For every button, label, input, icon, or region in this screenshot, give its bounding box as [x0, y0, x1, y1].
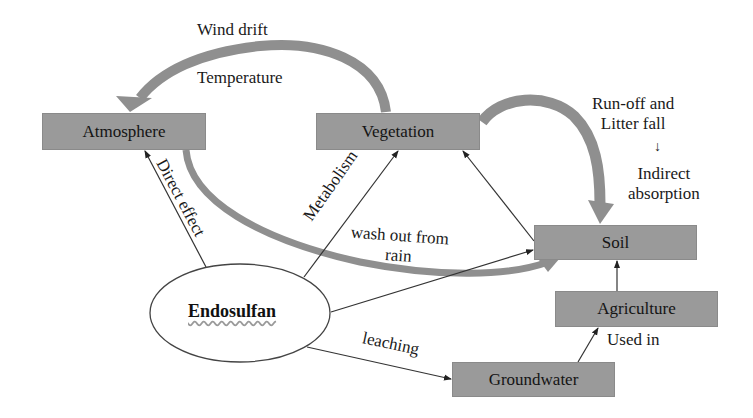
- agriculture-node: Agriculture: [555, 291, 718, 327]
- used-in-label: Used in: [607, 330, 659, 350]
- runoff-down-arrow: ↓: [654, 139, 661, 155]
- connectors-layer: [0, 0, 753, 418]
- vegetation-node: Vegetation: [316, 113, 480, 150]
- runoff-label-line2: Litter fall: [592, 114, 674, 134]
- endosulfan-label: Endosulfan: [188, 301, 276, 322]
- soil-to-vegetation-line: [463, 151, 534, 241]
- used-in-line: [578, 328, 598, 362]
- wash-out-label: wash out from rain: [349, 223, 450, 269]
- indirect-absorption-label: Indirect absorption: [628, 164, 700, 203]
- runoff-label: Run-off and Litter fall: [592, 94, 674, 133]
- wind-drift-label: Wind drift: [197, 20, 268, 40]
- leaching-line: [307, 347, 451, 379]
- groundwater-node: Groundwater: [452, 362, 615, 397]
- temperature-label: Temperature: [197, 68, 283, 88]
- indirect-label-line2: absorption: [628, 184, 700, 204]
- soil-node: Soil: [534, 225, 697, 260]
- endosulfan-diagram: Atmosphere Vegetation Soil Agriculture G…: [0, 0, 753, 418]
- runoff-label-line1: Run-off and: [592, 94, 674, 114]
- indirect-label-line1: Indirect: [628, 164, 700, 184]
- atmosphere-node: Atmosphere: [42, 113, 206, 150]
